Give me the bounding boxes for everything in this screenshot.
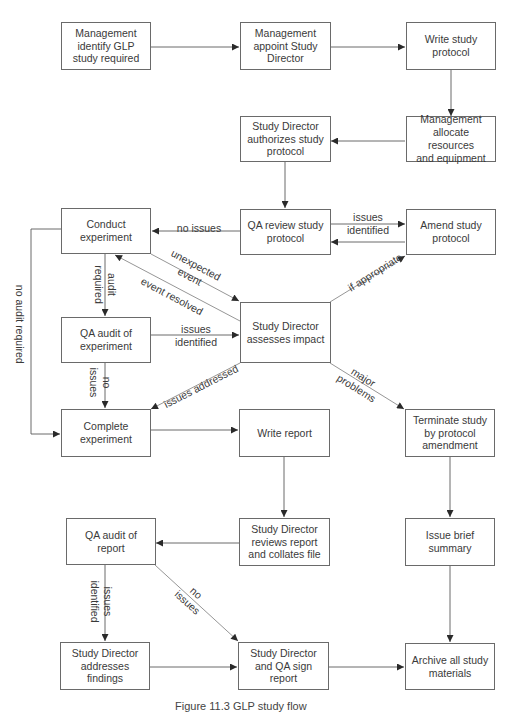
node-label: Management identify GLP study required: [73, 27, 140, 65]
edge-label-audit-required: audit required: [93, 255, 118, 315]
node-amend-protocol: Amend study protocol: [406, 209, 496, 255]
node-label: Study Director addresses findings: [72, 647, 139, 685]
figure-caption: Figure 11.3 GLP study flow: [175, 700, 307, 712]
edge-label-issues-identified-report: issues identified: [89, 577, 114, 627]
node-sd-qa-sign-report: Study Director and QA sign report: [238, 642, 329, 690]
node-qa-review: QA review study protocol: [240, 209, 331, 255]
node-label: Write study protocol: [425, 33, 477, 59]
node-conduct-experiment: Conduct experiment: [61, 208, 151, 254]
node-sd-assesses-impact: Study Director assesses impact: [240, 302, 331, 363]
node-label: Management appoint Study Director: [253, 27, 317, 65]
node-label: Amend study protocol: [420, 219, 481, 245]
edge-label-no-issues-review: no issues: [168, 222, 230, 235]
node-label: QA review study protocol: [248, 219, 324, 245]
node-write-report: Write report: [239, 409, 330, 457]
node-label: QA audit of experiment: [80, 327, 132, 353]
edge-label-no-audit-required: no audit required: [14, 269, 27, 379]
node-qa-audit-experiment: QA audit of experiment: [61, 317, 151, 363]
edge-label-no-issues-audit: no issues: [88, 363, 113, 403]
node-archive-materials: Archive all study materials: [405, 643, 495, 690]
edge-label-issues-identified-review: issues identified: [342, 211, 394, 236]
node-label: Write report: [257, 427, 312, 440]
node-label: Study Director assesses impact: [247, 320, 325, 346]
node-label: Complete experiment: [80, 420, 132, 446]
node-label: Archive all study materials: [412, 654, 488, 680]
node-complete-experiment: Complete experiment: [61, 409, 151, 457]
node-label: Terminate study by protocol amendment: [413, 414, 487, 452]
node-label: Study Director and QA sign report: [250, 647, 317, 685]
node-label: Management allocate resources and equipm…: [410, 113, 492, 164]
node-terminate-study: Terminate study by protocol amendment: [405, 409, 495, 457]
node-management-allocate: Management allocate resources and equipm…: [406, 116, 496, 162]
node-qa-audit-report: QA audit of report: [66, 518, 156, 565]
edge-label-issues-identified-audit: issues identified: [170, 323, 222, 348]
node-label: Study Director reviews report and collat…: [248, 523, 320, 561]
node-management-appoint: Management appoint Study Director: [240, 22, 331, 70]
node-label: Study Director authorizes study protocol: [247, 120, 323, 158]
node-sd-authorizes: Study Director authorizes study protocol: [240, 116, 331, 162]
node-label: Issue brief summary: [426, 529, 474, 555]
node-sd-addresses-findings: Study Director addresses findings: [60, 642, 150, 690]
node-sd-reviews-report: Study Director reviews report and collat…: [239, 518, 330, 566]
node-label: Conduct experiment: [80, 218, 132, 244]
node-write-protocol: Write study protocol: [406, 22, 496, 70]
arrow-conduct-to-complete: [31, 229, 61, 434]
node-management-identify: Management identify GLP study required: [61, 22, 151, 70]
node-label: QA audit of report: [85, 529, 137, 555]
node-issue-brief-summary: Issue brief summary: [405, 518, 495, 566]
